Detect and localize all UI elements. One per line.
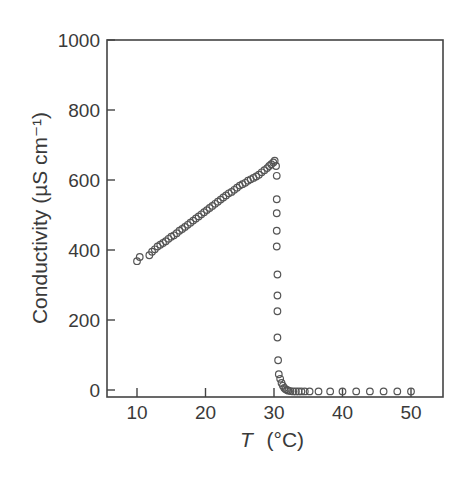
y-tick-label: 800	[68, 100, 100, 121]
x-tick-label: 30	[263, 402, 284, 423]
data-point	[273, 196, 280, 203]
x-tick-label: 50	[400, 402, 421, 423]
data-point	[275, 371, 282, 378]
data-points	[134, 157, 415, 394]
data-point	[367, 388, 374, 395]
y-tick-label: 400	[68, 240, 100, 261]
data-point	[353, 388, 360, 395]
data-point	[273, 243, 280, 250]
y-tick-label: 1000	[58, 30, 100, 51]
x-tick-label: 10	[126, 402, 147, 423]
y-tick-label: 600	[68, 170, 100, 191]
x-axis-label: T (°C)	[240, 428, 304, 451]
x-axis-ticks: 1020304050	[126, 388, 421, 423]
conductivity-chart: 02004006008001000 1020304050 Conductivit…	[0, 0, 467, 480]
plot-frame	[107, 40, 443, 397]
data-point	[274, 292, 281, 299]
x-axis-label-unit: (°C)	[267, 428, 305, 451]
data-point	[327, 388, 334, 395]
data-point	[273, 210, 280, 217]
x-axis-label-symbol: T	[240, 428, 255, 451]
y-axis-label: Conductivity (µS cm⁻¹)	[28, 112, 51, 324]
data-point	[306, 388, 313, 395]
data-point	[380, 388, 387, 395]
data-point	[394, 388, 401, 395]
data-point	[274, 271, 281, 278]
y-tick-label: 200	[68, 310, 100, 331]
data-point	[315, 388, 322, 395]
data-point	[273, 227, 280, 234]
data-point	[274, 308, 281, 315]
y-tick-label: 0	[89, 380, 100, 401]
x-tick-label: 20	[195, 402, 216, 423]
x-tick-label: 40	[332, 402, 353, 423]
data-point	[275, 357, 282, 364]
data-point	[277, 376, 284, 383]
data-point	[274, 334, 281, 341]
data-point	[273, 173, 280, 180]
